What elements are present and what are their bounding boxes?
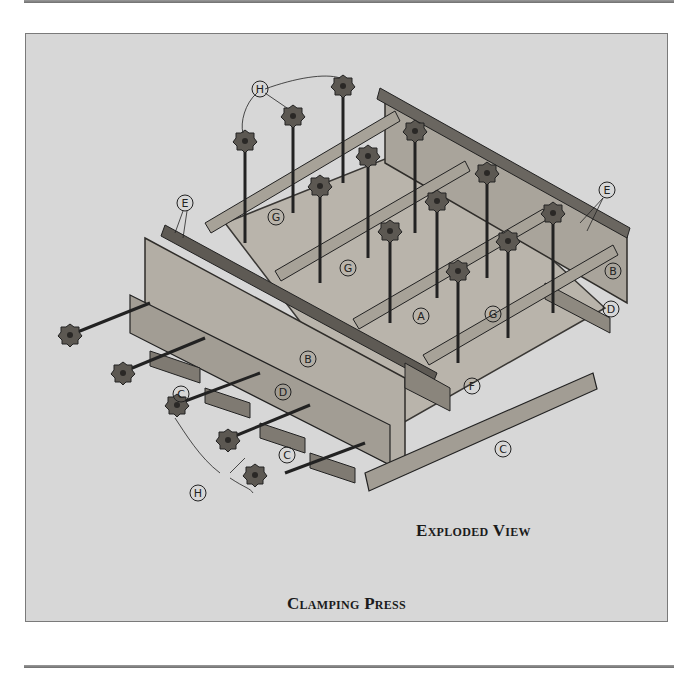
knob-icon bbox=[233, 130, 257, 153]
svg-text:C: C bbox=[283, 449, 291, 462]
label-d-right: D bbox=[603, 301, 619, 317]
label-c-loose: C bbox=[495, 441, 511, 457]
knob-icon bbox=[475, 162, 499, 185]
knob-icon bbox=[281, 105, 305, 128]
svg-text:E: E bbox=[182, 197, 189, 210]
svg-text:G: G bbox=[272, 211, 281, 224]
svg-text:D: D bbox=[607, 303, 615, 316]
knob-icon bbox=[216, 429, 240, 452]
svg-text:H: H bbox=[256, 83, 264, 96]
svg-text:C: C bbox=[177, 388, 185, 401]
knob-icon bbox=[446, 260, 470, 283]
label-e-left: E bbox=[177, 195, 193, 211]
label-e-right: E bbox=[599, 182, 615, 198]
svg-text:B: B bbox=[609, 265, 617, 278]
svg-text:F: F bbox=[469, 380, 475, 393]
label-c-lower: C bbox=[279, 447, 295, 463]
top-rule bbox=[24, 0, 674, 3]
knob-icon bbox=[378, 220, 402, 243]
svg-text:G: G bbox=[344, 262, 353, 275]
svg-text:B: B bbox=[304, 353, 312, 366]
knob-icon bbox=[541, 202, 565, 225]
svg-text:C: C bbox=[499, 443, 507, 456]
label-c-upper: C bbox=[173, 386, 189, 402]
knob-icon bbox=[58, 324, 82, 347]
knob-icon bbox=[331, 75, 355, 98]
knob-icon bbox=[403, 120, 427, 143]
svg-text:E: E bbox=[604, 184, 611, 197]
knob-icon bbox=[496, 230, 520, 253]
knob-icon bbox=[425, 190, 449, 213]
svg-text:H: H bbox=[194, 487, 202, 500]
bottom-rule bbox=[24, 665, 674, 668]
knob-icon bbox=[356, 145, 380, 168]
svg-text:A: A bbox=[417, 310, 425, 323]
clamping-press-illustration: H E E G G G A B B D D F C C C H bbox=[25, 33, 666, 620]
knob-icon bbox=[243, 464, 267, 487]
svg-text:G: G bbox=[489, 308, 498, 321]
svg-text:D: D bbox=[279, 386, 287, 399]
label-h-bottom: H bbox=[190, 485, 206, 501]
knob-icon bbox=[308, 175, 332, 198]
cross-bar-c-lower-4 bbox=[310, 453, 355, 483]
knob-icon bbox=[111, 362, 135, 385]
